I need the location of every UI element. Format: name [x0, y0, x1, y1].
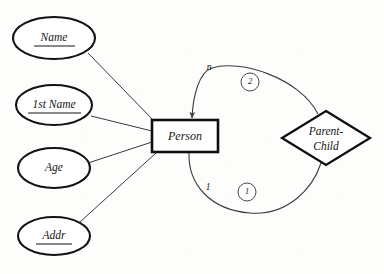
- attribute-name-label: Name: [40, 31, 68, 43]
- connector-name-to-person: [88, 53, 155, 122]
- attribute-1st-name-label: 1st Name: [32, 98, 75, 110]
- connector-age-to-person: [88, 142, 152, 163]
- relationship-parent-child[interactable]: Parent- Child: [282, 111, 370, 165]
- attribute-name[interactable]: Name: [13, 17, 95, 59]
- entity-person[interactable]: Person: [152, 120, 218, 152]
- attribute-addr[interactable]: Addr: [18, 217, 90, 255]
- attribute-age-label: Age: [44, 161, 63, 174]
- cardinality-label-lower: 1: [206, 182, 211, 192]
- arc-upper-parent-child-to-person: [192, 66, 318, 118]
- attribute-connectors: [80, 53, 156, 222]
- badge-lower-label: 1: [245, 186, 250, 196]
- attribute-age[interactable]: Age: [18, 148, 90, 188]
- connector-addr-to-person: [80, 153, 156, 222]
- relationship-parent-child-label-line1: Parent-: [308, 125, 344, 137]
- attribute-addr-label: Addr: [42, 229, 67, 241]
- badge-upper: 2: [241, 73, 259, 91]
- er-diagram-canvas: Name 1st Name Age Addr Person Parent- Ch…: [0, 0, 384, 274]
- cardinality-label-upper: n: [207, 62, 212, 72]
- badge-upper-label: 2: [248, 76, 253, 86]
- entity-person-label: Person: [167, 129, 202, 143]
- attribute-1st-name[interactable]: 1st Name: [16, 85, 92, 125]
- er-diagram-svg: Name 1st Name Age Addr Person Parent- Ch…: [0, 0, 384, 274]
- connector-1st-name-to-person: [91, 116, 152, 131]
- relationship-parent-child-label-line2: Child: [313, 140, 339, 152]
- relationship-parent-child-diamond[interactable]: [282, 111, 370, 165]
- badge-lower: 1: [238, 183, 256, 201]
